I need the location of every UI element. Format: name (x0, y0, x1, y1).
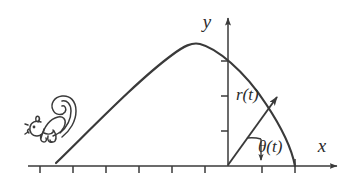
x-axis-group (28, 159, 337, 173)
position-vector-label: r(t) (236, 85, 259, 104)
x-axis-label: x (317, 135, 327, 156)
angle-label: θ(t) (258, 137, 283, 156)
y-axis-group (221, 18, 228, 166)
y-axis-label: y (201, 11, 212, 32)
y-axis-ticks (221, 61, 228, 131)
projectile-polar-diagram: y x r(t) θ(t) (0, 0, 351, 192)
squirrel-launcher (25, 96, 76, 142)
diagram-canvas: y x r(t) θ(t) (0, 0, 351, 192)
